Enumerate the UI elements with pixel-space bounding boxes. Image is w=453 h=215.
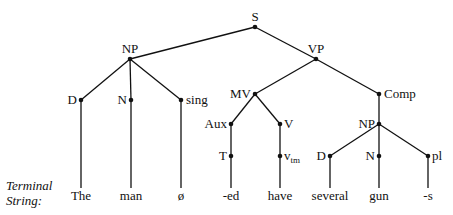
edge-vp-comp [316,59,379,94]
node-label-comp: Comp [384,86,416,101]
terminal-lines [81,100,428,188]
phrase-structure-tree: SNPVPDNsingMVCompAuxVNPTvtmDNpl Themanø-… [0,0,453,215]
node-dot-d1 [79,98,84,103]
node-dot-n2 [377,154,382,159]
terminal-word: man [120,188,143,203]
terminal-word: have [268,188,293,203]
node-label-vp: VP [308,41,325,56]
node-label-t: T [219,148,227,163]
terminal-word: -s [423,188,432,203]
node-label-v: V [284,116,294,131]
node-label-mv: MV [230,86,252,101]
terminal-word: The [71,188,91,203]
node-dot-np1 [128,57,133,62]
node-label-pl: pl [432,148,443,163]
terminal-string-words: Themanø-edhaveseveralgun-s [71,188,433,203]
edge-s-np1 [130,27,255,59]
node-dot-aux [229,122,234,127]
node-dot-comp [377,92,382,97]
node-label-np1: NP [122,41,139,56]
terminal-word: -ed [223,188,240,203]
node-label-aux: Aux [205,116,228,131]
node-dot-vp [314,57,319,62]
node-dot-t [229,154,234,159]
edge-np2-pl [379,124,428,156]
terminal-word: gun [369,188,389,203]
node-label-n1: N [118,92,128,107]
node-dot-d2 [328,154,333,159]
node-label-sing: sing [186,92,208,107]
node-label-d1: D [68,92,77,107]
terminal-word: several [312,188,349,203]
terminal-caption-line-1: Terminal [6,178,53,193]
node-dot-n1 [129,98,134,103]
node-label-s: S [251,9,258,24]
node-dot-sing [179,98,184,103]
node-label-vtm: vtm [284,148,300,165]
node-label-np2: NP [358,116,375,131]
node-dot-vtm [278,154,283,159]
edge-np1-sing [130,59,181,100]
node-dot-pl [426,154,431,159]
node-dot-np2 [377,122,382,127]
node-dot-s [253,25,258,30]
node-labels: SNPVPDNsingMVCompAuxVNPTvtmDNpl [68,9,443,165]
terminal-word: ø [178,188,185,203]
node-dot-mv [253,92,258,97]
edge-np1-n1 [130,59,131,100]
node-label-d2: D [317,148,326,163]
node-dot-v [278,122,283,127]
edge-vp-mv [255,59,316,94]
node-label-n2: N [366,148,376,163]
edge-mv-v [255,94,280,124]
terminal-caption-line-2: String: [6,193,42,208]
